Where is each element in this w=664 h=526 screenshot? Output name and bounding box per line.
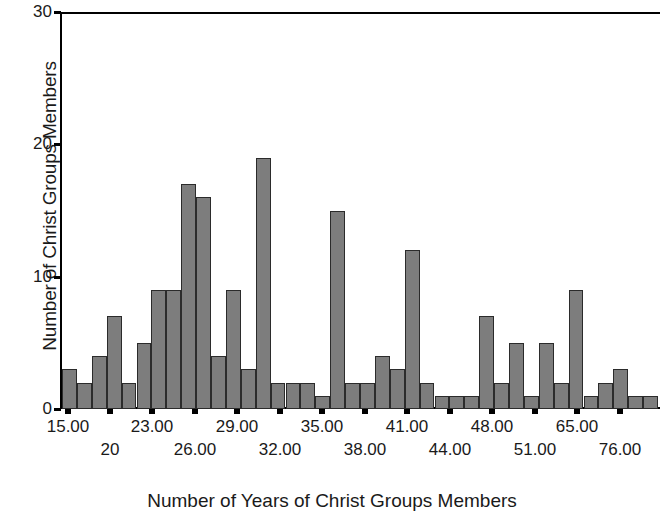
x-axis-tick-label: 15.00 bbox=[47, 418, 90, 436]
histogram-bar bbox=[122, 383, 137, 409]
x-axis-tick bbox=[489, 409, 495, 414]
histogram-bar bbox=[77, 383, 92, 409]
bar-series bbox=[62, 12, 658, 409]
x-axis-tick-label: 38.00 bbox=[344, 441, 387, 459]
x-axis-tick-label: 41.00 bbox=[386, 418, 429, 436]
histogram-chart: Number of Christ Groups Members 0102030 … bbox=[0, 0, 664, 526]
histogram-bar bbox=[464, 396, 479, 409]
histogram-bar bbox=[300, 383, 315, 409]
y-axis-tick-label: 30 bbox=[8, 3, 52, 20]
histogram-bar bbox=[628, 396, 643, 409]
histogram-bar bbox=[196, 197, 211, 409]
x-axis-tick-label: 35.00 bbox=[301, 418, 344, 436]
histogram-bar bbox=[613, 369, 628, 409]
histogram-bar bbox=[92, 356, 107, 409]
x-axis-tick bbox=[447, 409, 453, 414]
histogram-bar bbox=[256, 158, 271, 409]
x-axis-tick bbox=[277, 409, 283, 414]
x-axis-tick-label: 26.00 bbox=[174, 441, 217, 459]
x-axis-tick bbox=[319, 409, 325, 414]
histogram-bar bbox=[62, 369, 77, 409]
histogram-bar bbox=[584, 396, 599, 409]
histogram-bar bbox=[435, 396, 450, 409]
x-axis-tick bbox=[234, 409, 240, 414]
histogram-bar bbox=[509, 343, 524, 409]
histogram-bar bbox=[166, 290, 181, 409]
histogram-bar bbox=[479, 316, 494, 409]
x-axis-tick bbox=[617, 409, 623, 414]
x-axis-tick-label: 32.00 bbox=[259, 441, 302, 459]
histogram-bar bbox=[539, 343, 554, 409]
y-axis-tick-label: 20 bbox=[8, 135, 52, 152]
histogram-bar bbox=[569, 290, 584, 409]
x-axis-tick bbox=[149, 409, 155, 414]
x-axis-tick-label: 48.00 bbox=[471, 418, 514, 436]
histogram-bar bbox=[390, 369, 405, 409]
x-axis-tick-label: 23.00 bbox=[131, 418, 174, 436]
y-axis-title: Number of Christ Groups Members bbox=[39, 6, 61, 406]
histogram-bar bbox=[360, 383, 375, 409]
x-axis-tick-label: 76.00 bbox=[599, 441, 642, 459]
x-axis-tick bbox=[362, 409, 368, 414]
x-axis-title: Number of Years of Christ Groups Members bbox=[0, 490, 664, 512]
histogram-bar bbox=[345, 383, 360, 409]
histogram-bar bbox=[137, 343, 152, 409]
histogram-bar bbox=[643, 396, 658, 409]
x-axis-tick-label: 29.00 bbox=[216, 418, 259, 436]
x-axis-tick bbox=[532, 409, 538, 414]
histogram-bar bbox=[449, 396, 464, 409]
histogram-bar bbox=[330, 211, 345, 410]
histogram-bar bbox=[315, 396, 330, 409]
x-axis-tick-label: 20 bbox=[101, 441, 120, 459]
histogram-bar bbox=[181, 184, 196, 409]
y-axis-tick-label: 10 bbox=[8, 268, 52, 285]
histogram-bar bbox=[226, 290, 241, 409]
x-axis-tick bbox=[192, 409, 198, 414]
histogram-bar bbox=[554, 383, 569, 409]
x-axis-tick-label: 51.00 bbox=[514, 441, 557, 459]
histogram-bar bbox=[107, 316, 122, 409]
x-axis-tick bbox=[404, 409, 410, 414]
histogram-bar bbox=[241, 369, 256, 409]
x-axis-tick bbox=[574, 409, 580, 414]
x-axis-tick-label: 44.00 bbox=[429, 441, 472, 459]
histogram-bar bbox=[420, 383, 435, 409]
histogram-bar bbox=[524, 396, 539, 409]
histogram-bar bbox=[494, 383, 509, 409]
histogram-bar bbox=[271, 383, 286, 409]
histogram-bar bbox=[211, 356, 226, 409]
x-axis-tick-label: 65.00 bbox=[556, 418, 599, 436]
y-axis-tick-label: 0 bbox=[8, 400, 52, 417]
histogram-bar bbox=[405, 250, 420, 409]
histogram-bar bbox=[598, 383, 613, 409]
histogram-bar bbox=[375, 356, 390, 409]
x-axis-tick bbox=[65, 409, 71, 414]
histogram-bar bbox=[151, 290, 166, 409]
x-axis-tick bbox=[107, 409, 113, 414]
histogram-bar bbox=[286, 383, 301, 409]
